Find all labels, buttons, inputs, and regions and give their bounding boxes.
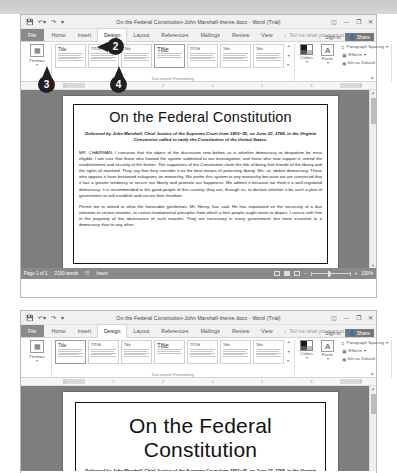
tab-mailings[interactable]: Mailings [194, 29, 225, 41]
collapse-ribbon-icon[interactable]: ▴ [371, 371, 374, 376]
effects-button[interactable]: ▣ Effects ▾ [342, 52, 389, 58]
minimize-button[interactable]: — [344, 19, 350, 25]
read-mode-icon[interactable] [274, 271, 280, 276]
scroll-up-icon[interactable]: ▲ [371, 90, 375, 95]
chevron-down-icon[interactable]: ▾ [306, 60, 308, 63]
chevron-down-icon[interactable]: ▾ [386, 340, 388, 346]
document-content[interactable]: On the Federal Constitution Delivered by… [79, 109, 322, 259]
chevron-down-icon[interactable]: ▾ [386, 44, 388, 50]
share-button[interactable]: 👤 Share [345, 329, 374, 337]
zoom-level[interactable]: 100% [361, 271, 373, 276]
tab-review[interactable]: Review [226, 325, 255, 337]
style-swatch[interactable]: TITLE [187, 44, 218, 68]
tab-file[interactable]: File [21, 325, 44, 337]
chevron-down-icon[interactable]: ▾ [36, 63, 38, 66]
document-page[interactable]: On the Federal Constitution Delivered by… [63, 96, 338, 268]
style-swatch[interactable]: Title [121, 44, 152, 68]
chevron-down-icon[interactable]: ▾ [36, 359, 38, 362]
set-as-default-button[interactable]: ◉ Set as Default [342, 60, 389, 66]
caret-down-icon[interactable]: ▼ [287, 54, 291, 59]
zoom-slider[interactable] [311, 273, 351, 274]
style-gallery-scroll[interactable]: ▲ ▼ ▾ [286, 44, 291, 68]
chevron-down-icon[interactable]: ▾ [306, 356, 308, 359]
zoom-slider-knob[interactable] [328, 271, 330, 277]
chevron-down-icon[interactable]: ▾ [364, 52, 366, 58]
scroll-up-icon[interactable]: ▲ [371, 386, 375, 391]
ribbon-display-options-icon[interactable]: ◫ [331, 315, 337, 321]
colors-button[interactable]: Colors ▾ [298, 44, 316, 63]
tab-references[interactable]: References [155, 325, 194, 337]
zoom-out-button[interactable]: − [304, 271, 307, 276]
tab-mailings[interactable]: Mailings [194, 325, 225, 337]
maximize-button[interactable]: ❐ [356, 315, 361, 321]
close-button[interactable]: ✕ [368, 19, 373, 25]
print-layout-icon[interactable] [284, 271, 290, 276]
more-styles-icon[interactable]: ▾ [287, 63, 291, 68]
ribbon-display-options-icon[interactable]: ◫ [331, 19, 337, 25]
proofing-icon[interactable]: ☷ [85, 271, 89, 276]
scrollbar-thumb[interactable] [371, 98, 376, 124]
insert-mode-label[interactable]: Insert [96, 271, 108, 276]
document-content[interactable]: On the Federal Constitution Delivered by… [85, 414, 316, 471]
sign-in-link[interactable]: Sign in [325, 34, 340, 40]
chevron-down-icon[interactable]: ▾ [364, 348, 366, 354]
paragraph-spacing-button[interactable]: ≡ Paragraph Spacing ▾ [342, 340, 389, 346]
close-button[interactable]: ✕ [368, 315, 373, 321]
tab-file[interactable]: File [21, 29, 44, 41]
document-body[interactable]: MR. CHAIRMAN, I conceive that the object… [79, 150, 322, 228]
window-controls[interactable]: ◫ — ❐ ✕ [331, 19, 374, 25]
vertical-scrollbar[interactable]: ▲ [369, 386, 376, 471]
scrollbar-thumb[interactable] [371, 394, 376, 414]
vertical-scrollbar[interactable]: ▲ ▼ [369, 90, 376, 268]
style-swatch[interactable]: Title [253, 44, 284, 68]
colors-button[interactable]: Colors ▾ [298, 340, 316, 359]
effects-button[interactable]: ▣ Effects ▾ [342, 348, 389, 354]
tab-home[interactable]: Home [46, 325, 72, 337]
tab-review[interactable]: Review [226, 29, 255, 41]
caret-down-icon[interactable]: ▼ [287, 350, 291, 355]
fonts-button[interactable]: A Fonts ▾ [319, 340, 337, 360]
chevron-down-icon[interactable]: ▾ [327, 61, 329, 64]
document-page[interactable]: On the Federal Constitution Delivered by… [63, 392, 338, 471]
set-as-default-button[interactable]: ◉ Set as Default [342, 356, 389, 362]
tab-home[interactable]: Home [46, 29, 72, 41]
fonts-button[interactable]: A Fonts ▾ [319, 44, 337, 64]
style-swatch[interactable]: Title [121, 340, 152, 364]
tab-layout[interactable]: Layout [127, 29, 155, 41]
sign-in-link[interactable]: Sign in [325, 330, 340, 336]
minimize-button[interactable]: — [344, 315, 350, 321]
collapse-ribbon-icon[interactable]: ▴ [371, 75, 374, 80]
chevron-down-icon[interactable]: ▾ [327, 357, 329, 360]
style-swatch-title-selected[interactable]: Title [154, 340, 185, 364]
style-swatch[interactable]: Title [55, 340, 86, 364]
paragraph-spacing-button[interactable]: ≡ Paragraph Spacing ▾ [342, 44, 389, 50]
caret-up-icon[interactable]: ▲ [287, 340, 291, 345]
zoom-in-button[interactable]: + [355, 271, 358, 276]
style-gallery-scroll[interactable]: ▲ ▼ ▾ [286, 340, 291, 364]
tab-view[interactable]: View [255, 325, 278, 337]
maximize-button[interactable]: ❐ [356, 19, 361, 25]
more-styles-icon[interactable]: ▾ [287, 359, 291, 364]
tab-insert[interactable]: Insert [72, 325, 97, 337]
style-swatch[interactable]: Title [55, 44, 86, 68]
tab-design[interactable]: Design [97, 324, 128, 338]
tab-insert[interactable]: Insert [72, 29, 97, 41]
style-swatch[interactable]: Title [253, 340, 284, 364]
tab-references[interactable]: References [155, 29, 194, 41]
themes-button[interactable]: ▦ Themes ▾ [26, 340, 48, 362]
tab-layout[interactable]: Layout [127, 325, 155, 337]
style-gallery[interactable]: Title TITLE Title Title [55, 44, 291, 68]
page-indicator[interactable]: Page 1 of 1 [24, 271, 48, 276]
style-swatch-title-selected[interactable]: Title [154, 44, 185, 68]
web-layout-icon[interactable] [294, 271, 300, 276]
style-swatch[interactable]: Title [220, 44, 251, 68]
style-swatch[interactable]: Title [220, 340, 251, 364]
caret-up-icon[interactable]: ▲ [287, 44, 291, 49]
window-controls[interactable]: ◫ — ❐ ✕ [331, 315, 374, 321]
style-swatch[interactable]: TITLE [187, 340, 218, 364]
horizontal-ruler[interactable]: 1 2 3 4 5 6 7 [21, 378, 376, 386]
style-swatch[interactable]: TITLE [88, 340, 119, 364]
word-count[interactable]: 2190 words [55, 271, 79, 276]
tab-view[interactable]: View [255, 29, 278, 41]
style-gallery[interactable]: Title TITLE Title Title [55, 340, 291, 364]
